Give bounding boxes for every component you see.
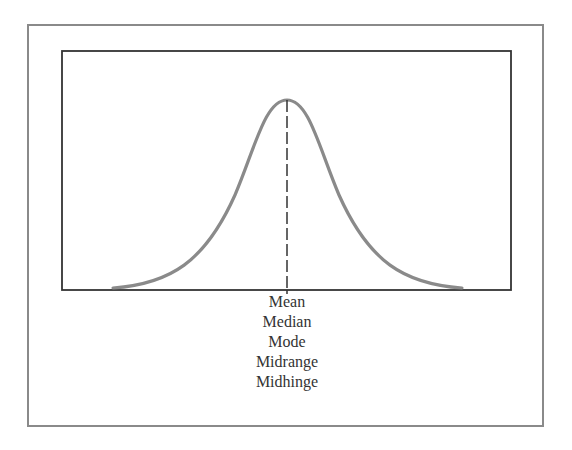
label-midrange: Midrange	[187, 352, 387, 372]
bell-curve	[113, 100, 462, 288]
label-midhinge: Midhinge	[187, 372, 387, 392]
center-labels: Mean Median Mode Midrange Midhinge	[187, 292, 387, 392]
label-mean: Mean	[187, 292, 387, 312]
label-mode: Mode	[187, 332, 387, 352]
label-median: Median	[187, 312, 387, 332]
